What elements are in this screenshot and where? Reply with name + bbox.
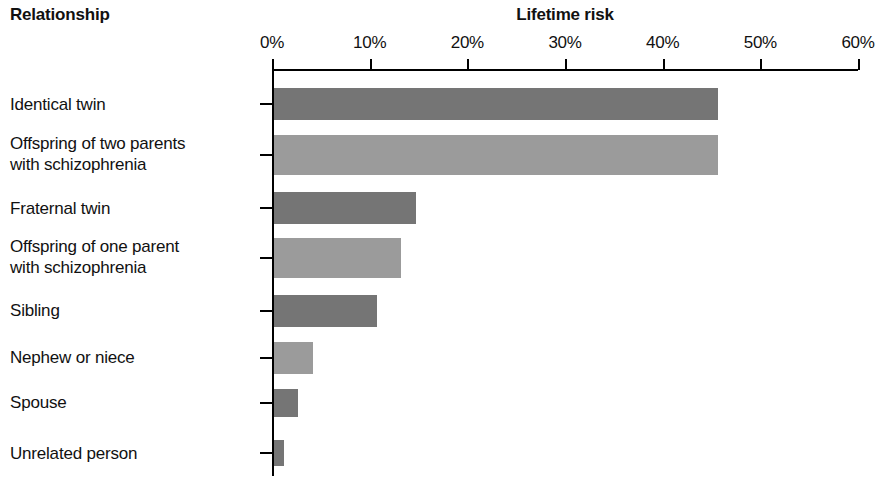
y-axis-tick-mark — [260, 402, 274, 404]
x-axis-tick-mark — [858, 59, 860, 70]
bar — [274, 295, 377, 327]
x-axis-tick-mark — [565, 59, 567, 70]
category-label: Unrelated person — [10, 443, 137, 464]
y-axis-tick-mark — [260, 357, 274, 359]
bar — [274, 192, 416, 224]
y-axis-tick-mark — [260, 103, 274, 105]
category-label: Offspring of one parent with schizophren… — [10, 236, 179, 278]
bar — [274, 389, 298, 417]
x-axis-tick-mark — [272, 59, 274, 70]
y-axis-tick-mark — [260, 207, 274, 209]
x-axis-tick-mark — [467, 59, 469, 70]
y-axis-tick-mark — [260, 257, 274, 259]
bar — [274, 88, 718, 120]
y-axis-tick-mark — [260, 154, 274, 156]
bar — [274, 238, 401, 278]
category-label: Identical twin — [10, 94, 105, 115]
x-axis-tick-mark — [663, 59, 665, 70]
bar — [274, 440, 284, 466]
bar — [274, 135, 718, 175]
category-label: Spouse — [10, 392, 66, 413]
category-label: Offspring of two parents with schizophre… — [10, 133, 185, 175]
bar — [274, 342, 313, 374]
category-label: Nephew or niece — [10, 347, 135, 368]
y-axis-tick-mark — [260, 452, 274, 454]
category-label: Fraternal twin — [10, 198, 110, 219]
x-axis-tick-mark — [760, 59, 762, 70]
x-axis-tick-mark — [370, 59, 372, 70]
category-label: Sibling — [10, 300, 60, 321]
y-axis-tick-mark — [260, 310, 274, 312]
